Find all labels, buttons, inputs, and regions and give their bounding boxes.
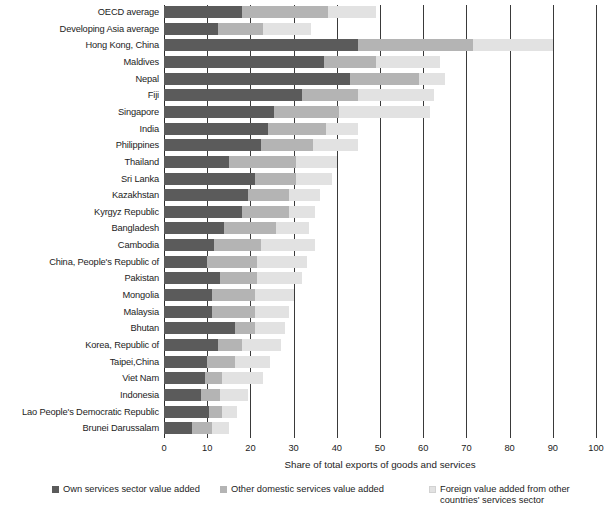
bar-row bbox=[164, 239, 315, 251]
bar-segment-series-2 bbox=[296, 156, 337, 168]
y-axis-label: Fiji bbox=[4, 89, 164, 101]
bar-segment-series-0 bbox=[164, 139, 261, 151]
y-axis-label: Bangladesh bbox=[4, 222, 164, 234]
bar-segment-series-0 bbox=[164, 56, 324, 68]
bar-segment-series-2 bbox=[376, 56, 441, 68]
bar-segment-series-1 bbox=[242, 206, 290, 218]
bar-row bbox=[164, 123, 358, 135]
x-axis-tick-label: 80 bbox=[504, 443, 514, 453]
gridline-90 bbox=[553, 5, 554, 438]
bar-segment-series-0 bbox=[164, 156, 229, 168]
bar-segment-series-0 bbox=[164, 222, 224, 234]
legend-swatch-icon bbox=[429, 486, 436, 493]
y-axis-label: Malaysia bbox=[4, 306, 164, 318]
legend-item-foreign-value-added: Foreign value added from other countries… bbox=[429, 484, 599, 506]
bar-segment-series-0 bbox=[164, 356, 207, 368]
y-axis-label: Bhutan bbox=[4, 322, 164, 334]
legend-label-line2: countries' services sector bbox=[440, 495, 544, 505]
bar-row bbox=[164, 56, 440, 68]
y-axis-category-labels: OECD averageDeveloping Asia averageHong … bbox=[0, 5, 164, 438]
bar-segment-series-1 bbox=[358, 39, 472, 51]
bar-segment-series-0 bbox=[164, 189, 248, 201]
bar-segment-series-1 bbox=[274, 106, 339, 118]
y-axis-label: Pakistan bbox=[4, 272, 164, 284]
bar-segment-series-2 bbox=[473, 39, 553, 51]
bar-segment-series-1 bbox=[302, 89, 358, 101]
legend-label: Other domestic services value added bbox=[231, 484, 384, 495]
bar-row bbox=[164, 139, 358, 151]
bar-segment-series-0 bbox=[164, 206, 242, 218]
bar-segment-series-2 bbox=[261, 239, 315, 251]
y-axis-label: Lao People's Democratic Republic bbox=[4, 406, 164, 418]
legend-item-other-domestic-services: Other domestic services value added bbox=[220, 484, 384, 495]
gridline-80 bbox=[510, 5, 511, 438]
bar-row bbox=[164, 339, 281, 351]
y-axis-label: Korea, Republic of bbox=[4, 339, 164, 351]
bar-row bbox=[164, 39, 553, 51]
bar-segment-series-2 bbox=[313, 139, 358, 151]
bar-segment-series-1 bbox=[324, 56, 376, 68]
bar-segment-series-1 bbox=[224, 222, 276, 234]
bar-segment-series-0 bbox=[164, 289, 212, 301]
bar-row bbox=[164, 89, 434, 101]
legend-label: Own services sector value added bbox=[63, 484, 200, 495]
bar-segment-series-0 bbox=[164, 406, 209, 418]
x-axis-tick-label: 20 bbox=[245, 443, 255, 453]
legend-label-line1: Foreign value added from other bbox=[440, 484, 570, 494]
y-axis-label: Mongolia bbox=[4, 289, 164, 301]
y-axis-label: Thailand bbox=[4, 156, 164, 168]
bar-segment-series-0 bbox=[164, 6, 242, 18]
bar-segment-series-0 bbox=[164, 306, 212, 318]
bar-segment-series-2 bbox=[257, 272, 302, 284]
x-axis-tick-label: 70 bbox=[461, 443, 471, 453]
y-axis-label: Indonesia bbox=[4, 389, 164, 401]
bar-segment-series-0 bbox=[164, 256, 207, 268]
y-axis-label: Cambodia bbox=[4, 239, 164, 251]
services-value-added-stacked-bar-chart: OECD averageDeveloping Asia averageHong … bbox=[0, 0, 605, 514]
y-axis-label: Nepal bbox=[4, 73, 164, 85]
bar-row bbox=[164, 422, 229, 434]
x-axis-tick-label: 30 bbox=[288, 443, 298, 453]
gridline-50 bbox=[380, 5, 381, 438]
bar-row bbox=[164, 272, 302, 284]
bar-row bbox=[164, 356, 270, 368]
legend-swatch-icon bbox=[220, 486, 227, 493]
bar-segment-series-1 bbox=[242, 6, 328, 18]
y-axis-label: Developing Asia average bbox=[4, 23, 164, 35]
bar-segment-series-2 bbox=[339, 106, 430, 118]
bar-segment-series-1 bbox=[207, 256, 257, 268]
chart-legend: Own services sector value added Other do… bbox=[52, 484, 597, 512]
bar-segment-series-1 bbox=[192, 422, 211, 434]
bar-segment-series-0 bbox=[164, 239, 214, 251]
y-axis-label: Sri Lanka bbox=[4, 173, 164, 185]
bar-segment-series-1 bbox=[220, 272, 257, 284]
y-axis-label: OECD average bbox=[4, 6, 164, 18]
bar-segment-series-0 bbox=[164, 372, 205, 384]
bar-segment-series-2 bbox=[242, 339, 281, 351]
bar-segment-series-0 bbox=[164, 23, 218, 35]
bar-segment-series-1 bbox=[214, 239, 262, 251]
plot-area bbox=[164, 5, 596, 438]
y-axis-label: Taipei,China bbox=[4, 356, 164, 368]
bar-row bbox=[164, 222, 309, 234]
bar-segment-series-2 bbox=[257, 256, 307, 268]
bar-segment-series-0 bbox=[164, 73, 350, 85]
bar-segment-series-0 bbox=[164, 339, 218, 351]
bar-segment-series-2 bbox=[289, 189, 319, 201]
y-axis-label: Viet Nam bbox=[4, 372, 164, 384]
x-axis-title: Share of total exports of goods and serv… bbox=[164, 459, 596, 470]
x-axis-tick-label: 100 bbox=[588, 443, 604, 453]
y-axis-label: Kyrgyz Republic bbox=[4, 206, 164, 218]
bar-segment-series-1 bbox=[350, 73, 419, 85]
bar-segment-series-2 bbox=[255, 322, 285, 334]
bar-row bbox=[164, 73, 445, 85]
bar-row bbox=[164, 6, 376, 18]
bar-segment-series-1 bbox=[235, 322, 254, 334]
x-axis-tick-label: 60 bbox=[418, 443, 428, 453]
bar-segment-series-1 bbox=[248, 189, 289, 201]
legend-item-own-services: Own services sector value added bbox=[52, 484, 200, 495]
gridline-60 bbox=[423, 5, 424, 438]
x-axis-tick-label: 90 bbox=[548, 443, 558, 453]
bar-segment-series-0 bbox=[164, 39, 358, 51]
bar-segment-series-2 bbox=[276, 222, 308, 234]
